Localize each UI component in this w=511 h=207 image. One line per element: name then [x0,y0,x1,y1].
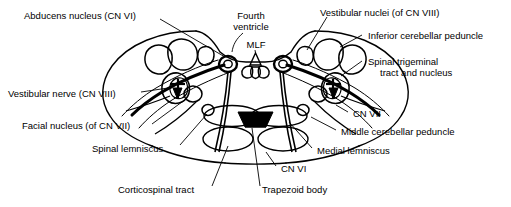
leader-abducens-nucleus [160,19,225,57]
leader-cn-vii [336,105,348,112]
label-spinal-trigeminal-line2: tract and nucleus [380,67,452,78]
label-abducens-nucleus: Abducens nucleus (CN VI) [24,10,136,21]
mlf-apex [250,53,261,65]
leader-facial-nucleus [152,99,186,124]
label-trapezoid-body: Trapezoid body [262,184,327,195]
leader-mlf [255,50,256,53]
corticospinal-tract-group [203,127,308,151]
cn-vi-fascicle-left-2 [219,72,231,152]
label-fourth-ventricle-line1: Fourth [222,10,280,21]
trapezoid-body-group [238,112,273,127]
corticospinal-tract-right [258,127,308,151]
label-middle-cerebellar-peduncle: Middle cerebellar peduncle [341,126,455,137]
label-medial-lemniscus: Medial lemniscus [317,145,390,156]
mlf-group [242,53,269,79]
label-inferior-cerebellar-peduncle: Inferior cerebellar peduncle [368,30,483,41]
label-cn-vi: CN VI [281,163,306,174]
label-facial-nucleus: Facial nucleus (of CN VII) [22,120,130,131]
label-cn-vii: CN VII [353,108,381,119]
leader-corticospinal-tract [212,146,228,186]
figure-page: Abducens nucleus (CN VI) Fourth ventricl… [0,0,511,207]
leader-middle-cerebellar-peduncle [311,117,336,130]
label-fourth-ventricle-line2: ventricle [222,21,280,32]
outline-ventral-midline [225,163,286,164]
vestibular-nerve-left-fiber [126,96,170,111]
label-vestibular-nuclei: Vestibular nuclei (of CN VIII) [320,7,439,18]
label-spinal-lemniscus: Spinal lemniscus [92,143,163,154]
label-spinal-trigeminal-line1: Spinal trigeminal [368,56,438,67]
facial-nucleus-group [184,86,327,116]
label-mlf: MLF [238,39,274,50]
vestibular-nucleus-right-small [297,46,313,65]
vestibular-nerve-group [126,96,385,111]
corticospinal-tract-left [203,127,253,151]
label-vestibular-nerve: Vestibular nerve (CN VIII) [8,88,116,99]
cn-vi-fascicle-right-2 [280,72,292,152]
label-corticospinal-tract: Corticospinal tract [118,184,194,195]
